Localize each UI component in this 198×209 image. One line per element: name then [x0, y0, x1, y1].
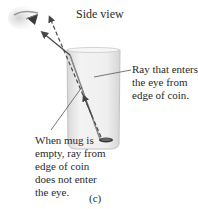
- ray-enters-label: Ray that enters the eye from edge of coi…: [132, 63, 198, 102]
- ray-enters-line: edge of coin.: [132, 89, 198, 102]
- eye-icon: [8, 6, 40, 30]
- empty-mug-line: edge of coin: [35, 160, 105, 173]
- empty-mug-line: When mug is: [35, 134, 105, 147]
- empty-mug-label: When mug is empty, ray from edge of coin…: [35, 134, 105, 199]
- ray-enters-line: Ray that enters: [132, 63, 198, 76]
- diagram-title: Side view: [76, 8, 124, 21]
- empty-mug-line: does not enter: [35, 173, 105, 186]
- ray-enters-line: the eye from: [132, 76, 198, 89]
- empty-mug-line: empty, ray from: [35, 147, 105, 160]
- panel-label: (c): [89, 192, 101, 205]
